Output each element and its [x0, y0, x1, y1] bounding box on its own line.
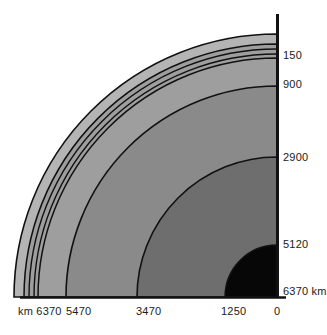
radius-label-1250: 1250: [221, 305, 246, 317]
radius-label-0: 0: [274, 305, 280, 317]
layer-arcs: [14, 34, 277, 297]
depth-label-2900: 2900: [283, 151, 308, 163]
depth-label-6370-km: 6370 km: [283, 285, 327, 297]
depth-label-900: 900: [283, 78, 302, 90]
radius-label-6370: km 6370: [18, 305, 62, 317]
depth-label-150: 150: [283, 49, 302, 61]
depth-label-5120: 5120: [283, 238, 308, 250]
radius-label-5470: 5470: [66, 305, 91, 317]
radius-label-3470: 3470: [136, 305, 161, 317]
